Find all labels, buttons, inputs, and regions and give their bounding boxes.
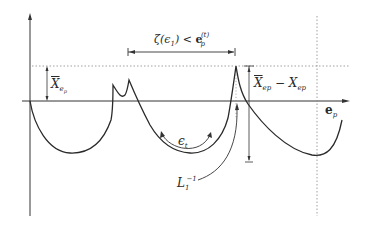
zeta-arrowhead-left: [129, 50, 135, 54]
zeta-rest: ) <: [175, 33, 196, 46]
L-inverse-arrowhead: [235, 103, 239, 110]
y-axis-arrowhead: [28, 13, 32, 20]
diff-label: Xep − Xep: [254, 77, 306, 92]
L-inverse-label: L1−1: [177, 176, 197, 192]
epsilon-label: ϵt: [178, 135, 188, 150]
xbar-label: Xep: [51, 78, 67, 94]
zeta-label: ζ(ϵ1) < ep(t): [154, 32, 209, 48]
L-main: L: [177, 176, 185, 190]
diff-minus: −: [271, 76, 289, 90]
diff-arrowhead-bottom: [248, 156, 251, 161]
diff-left: X: [254, 76, 263, 90]
xbar-main: X: [51, 77, 60, 91]
xbar-arrowhead-top: [46, 66, 49, 71]
x-axis-arrowhead: [342, 99, 350, 103]
axis-label: ep: [325, 104, 337, 119]
axis-e: e: [325, 103, 333, 117]
diff-left-sub: ep: [263, 84, 272, 92]
zeta-e-sub: p: [200, 40, 204, 48]
xbar-subsub: p: [64, 88, 67, 94]
L-inverse-arc: [198, 108, 237, 180]
zeta-e-sup: (t): [201, 31, 209, 39]
zeta-arrowhead-right: [228, 50, 234, 54]
epsilon-sub: t: [185, 142, 188, 150]
epsilon-main: ϵ: [178, 134, 185, 148]
axis-sub: p: [333, 111, 337, 119]
epsilon-arrowhead-right: [207, 132, 212, 138]
L-sup: −1: [186, 175, 196, 183]
diff-arrowhead-top: [248, 67, 251, 72]
diff-right-sub: ep: [297, 84, 306, 92]
xbar-arrowhead-bottom: [46, 96, 49, 101]
L-sub: 1: [185, 184, 189, 192]
zeta-main: ζ(ϵ: [154, 33, 170, 46]
